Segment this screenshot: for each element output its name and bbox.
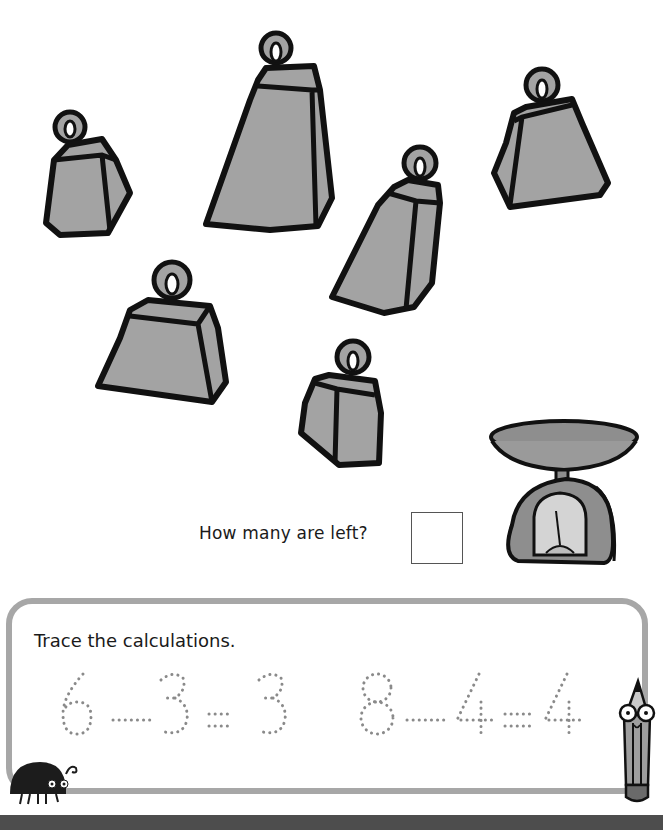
dotted-equation-1[interactable]: [55, 668, 295, 738]
weight-6: [295, 337, 385, 472]
trace-title: Trace the calculations.: [34, 630, 236, 651]
ladybug-icon: [8, 760, 74, 810]
weight-1: [40, 105, 135, 245]
dotted-equation-2[interactable]: [355, 668, 590, 738]
bottom-bar: [0, 815, 663, 830]
answer-box[interactable]: [411, 512, 463, 564]
weight-5: [90, 258, 230, 418]
question-text: How many are left?: [199, 523, 368, 543]
kitchen-scale-icon: [488, 415, 643, 570]
weight-2: [200, 30, 340, 240]
weight-3: [328, 135, 443, 315]
weight-4: [490, 65, 615, 215]
pencil-character-icon: [616, 675, 656, 805]
